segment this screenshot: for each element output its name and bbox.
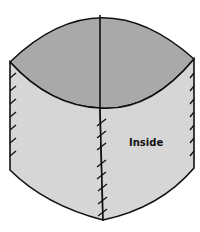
pillow-box-diagram: [0, 0, 200, 232]
inside-label: Inside: [129, 137, 163, 148]
